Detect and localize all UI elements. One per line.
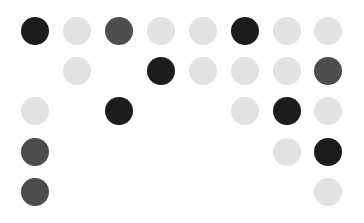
dot-marker-dark [314,138,342,166]
dot-cell-r3-c4 [147,97,175,125]
dot-cell-r5-c2 [63,178,91,206]
dot-cell-r2-c3 [105,57,133,85]
dot-cell-r4-c4 [147,138,175,166]
dot-cell-r2-c5 [189,57,217,85]
dot-marker-light [273,17,301,45]
dot-row [0,17,364,45]
dot-marker-dark [21,17,49,45]
dot-cell-r3-c5 [189,97,217,125]
dot-cell-r1-c8 [314,17,342,45]
dot-marker-light [189,17,217,45]
dot-cell-r1-c1 [21,17,49,45]
dot-cell-r4-c1 [21,138,49,166]
dot-cell-r5-c6 [231,178,259,206]
dot-marker-light [231,57,259,85]
dot-row [0,57,364,85]
dot-marker-dark [273,97,301,125]
dot-cell-r4-c7 [273,138,301,166]
dot-cell-r5-c8 [314,178,342,206]
dot-cell-r5-c7 [273,178,301,206]
dot-cell-r3-c7 [273,97,301,125]
dot-marker-medium [105,17,133,45]
dot-marker-medium [21,178,49,206]
dot-cell-r3-c3 [105,97,133,125]
dot-marker-dark [147,57,175,85]
dot-cell-r2-c6 [231,57,259,85]
dot-marker-light [63,57,91,85]
dot-cell-r1-c7 [273,17,301,45]
dot-matrix-canvas [0,0,364,223]
dot-marker-light [314,17,342,45]
dot-cell-r2-c8 [314,57,342,85]
dot-grid [0,0,364,223]
dot-cell-r2-c1 [21,57,49,85]
dot-marker-medium [21,138,49,166]
dot-cell-r1-c6 [231,17,259,45]
dot-marker-light [314,178,342,206]
dot-row [0,178,364,206]
dot-marker-medium [314,57,342,85]
dot-cell-r1-c5 [189,17,217,45]
dot-cell-r5-c5 [189,178,217,206]
dot-marker-light [273,57,301,85]
dot-marker-light [147,17,175,45]
dot-cell-r4-c6 [231,138,259,166]
dot-marker-dark [231,17,259,45]
dot-cell-r3-c6 [231,97,259,125]
dot-marker-light [189,57,217,85]
dot-cell-r4-c8 [314,138,342,166]
dot-marker-dark [105,97,133,125]
dot-row [0,97,364,125]
dot-cell-r5-c4 [147,178,175,206]
dot-cell-r4-c3 [105,138,133,166]
dot-marker-light [273,138,301,166]
dot-cell-r4-c2 [63,138,91,166]
dot-cell-r3-c2 [63,97,91,125]
dot-cell-r1-c2 [63,17,91,45]
dot-row [0,138,364,166]
dot-cell-r2-c2 [63,57,91,85]
dot-marker-light [21,97,49,125]
dot-cell-r5-c3 [105,178,133,206]
dot-marker-light [63,17,91,45]
dot-cell-r2-c7 [273,57,301,85]
dot-cell-r3-c8 [314,97,342,125]
dot-marker-light [314,97,342,125]
dot-cell-r3-c1 [21,97,49,125]
dot-cell-r5-c1 [21,178,49,206]
dot-marker-light [231,97,259,125]
dot-cell-r1-c3 [105,17,133,45]
dot-cell-r1-c4 [147,17,175,45]
dot-cell-r2-c4 [147,57,175,85]
dot-cell-r4-c5 [189,138,217,166]
